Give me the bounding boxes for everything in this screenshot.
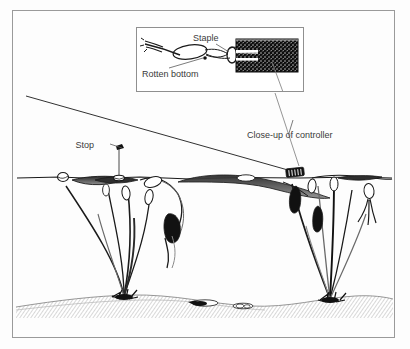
label-rotten-bottom: Rotten bottom: [142, 69, 199, 79]
illustration-stage: Staple Rotten bottom Stop Close-up of co…: [0, 0, 410, 349]
label-closeup-of-controller: Close-up of controller: [247, 130, 333, 140]
diagram-text-layer: Staple Rotten bottom Stop Close-up of co…: [0, 0, 410, 349]
label-staple: Staple: [193, 33, 219, 43]
label-stop: Stop: [75, 140, 94, 150]
